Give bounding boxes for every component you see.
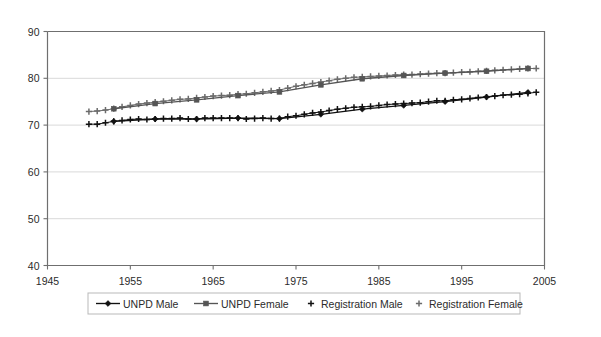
- datapoint-unpd-female-1973: [277, 89, 282, 94]
- x-tick-label-1955: 1955: [119, 275, 143, 287]
- y-tick-label-40: 40: [28, 260, 40, 272]
- x-tick-label-1965: 1965: [201, 275, 225, 287]
- datapoint-unpd-female-2003: [526, 66, 531, 71]
- datapoint-unpd-female-1988: [401, 73, 406, 78]
- y-tick-label-90: 90: [28, 26, 40, 38]
- legend-marker-1: [204, 301, 209, 306]
- y-tick-label-50: 50: [28, 213, 40, 225]
- legend-label-2: Registration Male: [321, 298, 403, 310]
- legend-label-1: UNPD Female: [221, 298, 289, 310]
- x-tick-label-1945: 1945: [36, 275, 60, 287]
- x-tick-label-1985: 1985: [367, 275, 391, 287]
- legend-item-registration-male[interactable]: Registration Male: [308, 298, 403, 310]
- x-tick-label-2005: 2005: [533, 275, 557, 287]
- y-tick-label-60: 60: [28, 166, 40, 178]
- datapoint-unpd-female-1963: [194, 97, 199, 102]
- datapoint-unpd-female-1953: [111, 106, 116, 111]
- x-tick-label-1975: 1975: [284, 275, 308, 287]
- legend-label-3: Registration Female: [429, 298, 523, 310]
- x-tick-label-1995: 1995: [450, 275, 474, 287]
- legend-label-0: UNPD Male: [123, 298, 179, 310]
- datapoint-unpd-female-1993: [443, 71, 448, 76]
- datapoint-unpd-female-1968: [236, 93, 241, 98]
- y-tick-label-70: 70: [28, 119, 40, 131]
- chart-legend: UNPD MaleUNPD FemaleRegistration MaleReg…: [88, 293, 523, 314]
- chart-container: 405060708090 194519551965197519851995200…: [0, 0, 601, 337]
- datapoint-unpd-female-1958: [153, 101, 158, 106]
- y-tick-label-80: 80: [28, 72, 40, 84]
- datapoint-unpd-female-1998: [484, 69, 489, 74]
- datapoint-unpd-female-1978: [318, 82, 323, 87]
- life-expectancy-line-chart: 405060708090 194519551965197519851995200…: [0, 0, 601, 337]
- legend-item-registration-female[interactable]: Registration Female: [416, 298, 523, 310]
- datapoint-unpd-female-1983: [360, 76, 365, 81]
